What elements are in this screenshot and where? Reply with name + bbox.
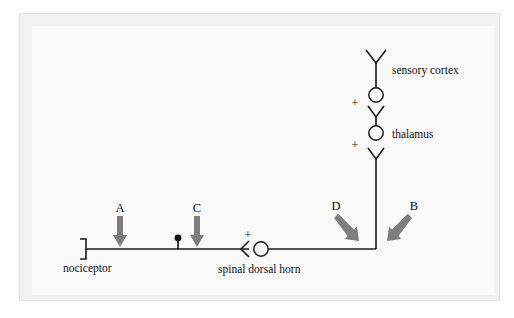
arrow-b-icon <box>387 214 412 241</box>
thalamus-presynaptic-terminal-icon <box>368 148 384 159</box>
arrow-c-label: C <box>193 201 201 215</box>
spinal-dorsal-horn-soma-icon <box>254 242 268 256</box>
label-thalamus: thalamus <box>392 128 434 140</box>
plus-sign-thalamus: + <box>352 138 359 152</box>
annotation-arrow-b: B <box>387 199 418 241</box>
label-nociceptor: nociceptor <box>63 262 112 275</box>
label-sensory-cortex: sensory cortex <box>392 64 459 77</box>
axon-varicosity-icon <box>175 235 182 242</box>
cortex-presynaptic-terminal-icon <box>368 106 384 117</box>
plus-sign-dorsal-horn: + <box>245 228 252 242</box>
arrow-d-label: D <box>331 199 340 213</box>
pain-pathway-diagram: + + + nociceptor spinal dorsal horn thal… <box>0 0 514 318</box>
plus-sign-cortex: + <box>352 96 359 110</box>
annotation-arrow-d: D <box>331 199 359 241</box>
nociceptor-terminal-icon <box>80 239 86 259</box>
arrow-b-label: B <box>410 199 418 213</box>
annotation-arrow-c: C <box>190 201 204 247</box>
figure-root: + + + nociceptor spinal dorsal horn thal… <box>0 0 514 318</box>
arrow-d-icon <box>334 214 359 241</box>
cortical-dendrite-branches-icon <box>366 50 386 63</box>
annotation-arrow-a: A <box>113 201 127 247</box>
thalamus-soma-icon <box>369 126 383 140</box>
arrow-c-icon <box>190 216 204 247</box>
arrow-a-icon <box>113 216 127 247</box>
label-spinal-dorsal-horn: spinal dorsal horn <box>218 263 301 276</box>
sensory-cortex-soma-icon <box>369 88 383 102</box>
arrow-a-label: A <box>115 201 124 215</box>
